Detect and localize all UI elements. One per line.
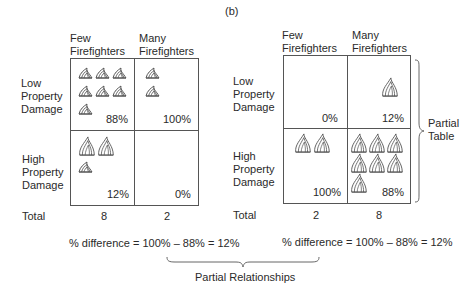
- right-total-label: Total: [233, 209, 256, 222]
- right-table-divider-h: [283, 128, 411, 129]
- flame-icon: [350, 153, 368, 173]
- flame-icon: [350, 133, 368, 153]
- flame-icon: [145, 85, 161, 97]
- flame-icon: [381, 77, 399, 97]
- right-cell-high-few-percent: 100%: [313, 186, 341, 198]
- partial-table-label: Partial Table: [428, 117, 459, 143]
- flame-icon: [78, 136, 96, 156]
- right-cell-high-many-percent: 88%: [382, 186, 404, 198]
- flame-icon: [294, 133, 312, 153]
- flame-icon: [112, 67, 128, 79]
- left-row-header-low: Low Property Damage: [21, 77, 63, 116]
- left-cell-high-few-percent: 12%: [107, 188, 129, 200]
- flame-icon: [368, 133, 386, 153]
- right-cell-high-few-flames: [294, 133, 331, 153]
- right-row-header-high: High Property Damage: [233, 150, 275, 189]
- left-cell-high-few-flames: [78, 136, 115, 175]
- flame-icon: [78, 103, 94, 115]
- left-cell-low-many-flames: [145, 67, 163, 97]
- left-difference: % difference = 100% – 88% = 12%: [69, 237, 239, 250]
- right-table-divider-v: [347, 55, 348, 204]
- partial-relationships-brace-icon: [165, 255, 321, 269]
- flame-icon: [78, 161, 94, 173]
- right-col-header-many: Many Firefighters: [352, 29, 407, 55]
- flame-icon: [112, 85, 128, 97]
- flame-icon: [368, 153, 386, 173]
- right-total-few: 2: [313, 209, 319, 222]
- left-table-divider-v: [134, 58, 135, 206]
- flame-icon: [95, 67, 111, 79]
- flame-icon: [386, 153, 404, 173]
- right-cell-low-few-percent: 0%: [322, 112, 338, 124]
- flame-icon: [78, 67, 94, 79]
- flame-icon: [97, 136, 115, 156]
- left-col-header-few: Few Firefighters: [70, 32, 125, 58]
- partial-table-brace-icon: [413, 58, 427, 204]
- flame-icon: [313, 133, 331, 153]
- left-total-few: 8: [101, 210, 107, 223]
- right-difference: % difference = 100% – 88% = 12%: [282, 236, 452, 249]
- left-cell-low-few-flames: [78, 67, 130, 115]
- left-total-label: Total: [22, 210, 45, 223]
- right-total-many: 8: [376, 209, 382, 222]
- left-cell-low-many-percent: 100%: [163, 113, 191, 125]
- right-cell-high-many-flames: [350, 133, 408, 193]
- left-table-divider-h: [70, 130, 199, 131]
- left-row-header-high: High Property Damage: [22, 153, 64, 192]
- flame-icon: [350, 173, 368, 193]
- flame-icon: [95, 85, 111, 97]
- right-cell-low-many-flames: [381, 77, 399, 97]
- left-total-many: 2: [164, 210, 170, 223]
- left-col-header-many: Many Firefighters: [139, 32, 194, 58]
- left-cell-low-few-percent: 88%: [106, 113, 128, 125]
- flame-icon: [78, 85, 94, 97]
- flame-icon: [145, 67, 161, 79]
- right-cell-low-many-percent: 12%: [382, 112, 404, 124]
- figure-label: (b): [225, 5, 238, 18]
- right-col-header-few: Few Firefighters: [282, 29, 337, 55]
- left-cell-high-many-percent: 0%: [175, 188, 191, 200]
- right-row-header-low: Low Property Damage: [233, 75, 275, 114]
- flame-icon: [386, 133, 404, 153]
- partial-relationships-label: Partial Relationships: [195, 271, 295, 284]
